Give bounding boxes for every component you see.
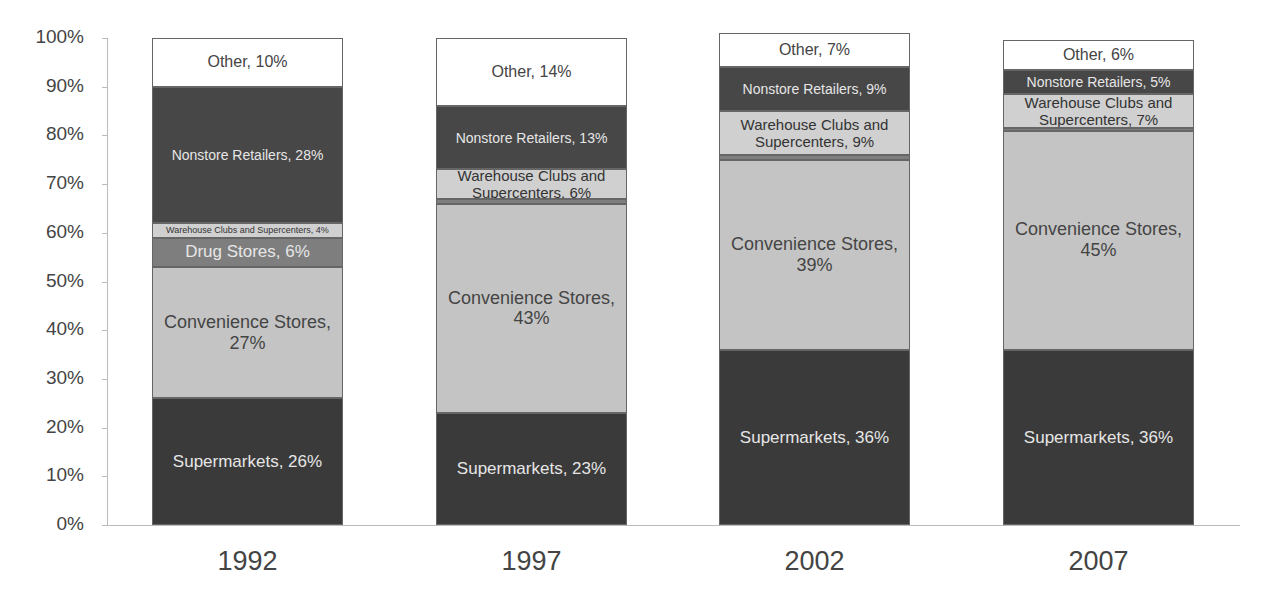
segment-supermarkets: Supermarkets, 26% (152, 398, 343, 525)
data-label: Convenience Stores, 39% (731, 234, 898, 275)
x-tick-label: 2002 (719, 546, 910, 577)
segment-other: Other, 7% (719, 33, 910, 67)
x-tick-label: 1992 (152, 546, 343, 577)
y-tick-mark (102, 379, 108, 380)
bar-2002: Supermarkets, 36%Convenience Stores, 39%… (719, 0, 910, 602)
y-tick-mark (102, 135, 108, 136)
y-tick-mark (102, 233, 108, 234)
y-tick-mark (102, 428, 108, 429)
stacked-bar-chart: 0%10%20%30%40%50%60%70%80%90%100% Superm… (0, 0, 1262, 602)
segment-other: Other, 14% (436, 38, 627, 106)
y-tick-mark (102, 184, 108, 185)
y-tick-mark (102, 38, 108, 39)
data-label: Other, 7% (779, 41, 850, 59)
data-label: Supermarkets, 26% (173, 452, 322, 472)
segment-nonstore-retailers: Nonstore Retailers, 9% (719, 67, 910, 111)
y-tick-label: 100% (0, 26, 84, 48)
data-label: Nonstore Retailers, 9% (743, 81, 887, 97)
data-label: Warehouse Clubs and Supercenters, 9% (741, 116, 889, 151)
y-tick-mark (102, 476, 108, 477)
bar-1997: Supermarkets, 23%Convenience Stores, 43%… (436, 0, 627, 602)
y-tick-label: 90% (0, 75, 84, 97)
data-label: Warehouse Clubs and Supercenters, 7% (1025, 94, 1173, 128)
data-label: Warehouse Clubs and Supercenters, 4% (166, 225, 329, 235)
y-tick-label: 30% (0, 367, 84, 389)
segment-drug-stores (436, 199, 627, 204)
y-tick-label: 50% (0, 270, 84, 292)
x-tick-label: 2007 (1003, 546, 1194, 577)
bar-1992: Supermarkets, 26%Convenience Stores, 27%… (152, 0, 343, 602)
y-tick-mark (102, 525, 108, 526)
data-label: Nonstore Retailers, 28% (172, 147, 324, 163)
y-tick-label: 80% (0, 123, 84, 145)
data-label: Warehouse Clubs and Supercenters, 6% (458, 169, 606, 198)
y-tick-mark (102, 282, 108, 283)
data-label: Convenience Stores, 27% (164, 312, 331, 353)
data-label: Convenience Stores, 45% (1015, 219, 1182, 260)
segment-nonstore-retailers: Nonstore Retailers, 13% (436, 106, 627, 169)
y-tick-label: 40% (0, 318, 84, 340)
data-label: Other, 14% (491, 63, 571, 81)
segment-drug-stores (1003, 128, 1194, 130)
data-label: Supermarkets, 36% (1024, 428, 1173, 448)
y-tick-label: 70% (0, 172, 84, 194)
y-tick-label: 60% (0, 221, 84, 243)
y-tick-label: 10% (0, 464, 84, 486)
segment-supermarkets: Supermarkets, 36% (719, 350, 910, 525)
data-label: Nonstore Retailers, 5% (1027, 74, 1171, 90)
y-tick-mark (102, 87, 108, 88)
segment-nonstore-retailers: Nonstore Retailers, 28% (152, 87, 343, 223)
segment-drug-stores (719, 155, 910, 160)
data-label: Other, 10% (207, 53, 287, 71)
data-label: Supermarkets, 36% (740, 428, 889, 448)
y-tick-label: 20% (0, 416, 84, 438)
data-label: Supermarkets, 23% (457, 459, 606, 479)
bar-2007: Supermarkets, 36%Convenience Stores, 45%… (1003, 0, 1194, 602)
segment-warehouse-clubs-and-supercenters: Warehouse Clubs and Supercenters, 7% (1003, 94, 1194, 128)
segment-warehouse-clubs-and-supercenters: Warehouse Clubs and Supercenters, 9% (719, 111, 910, 155)
y-tick-label: 0% (0, 513, 84, 535)
segment-convenience-stores: Convenience Stores, 45% (1003, 131, 1194, 350)
segment-warehouse-clubs-and-supercenters: Warehouse Clubs and Supercenters, 4% (152, 223, 343, 238)
data-label: Convenience Stores, 43% (448, 288, 615, 329)
x-tick-label: 1997 (436, 546, 627, 577)
segment-nonstore-retailers: Nonstore Retailers, 5% (1003, 70, 1194, 94)
segment-other: Other, 6% (1003, 40, 1194, 69)
segment-convenience-stores: Convenience Stores, 39% (719, 160, 910, 350)
data-label: Other, 6% (1063, 46, 1134, 64)
y-tick-mark (102, 330, 108, 331)
segment-convenience-stores: Convenience Stores, 43% (436, 204, 627, 413)
segment-other: Other, 10% (152, 38, 343, 87)
segment-drug-stores: Drug Stores, 6% (152, 238, 343, 267)
data-label: Nonstore Retailers, 13% (456, 130, 608, 146)
segment-warehouse-clubs-and-supercenters: Warehouse Clubs and Supercenters, 6% (436, 169, 627, 198)
segment-supermarkets: Supermarkets, 36% (1003, 350, 1194, 525)
segment-supermarkets: Supermarkets, 23% (436, 413, 627, 525)
segment-convenience-stores: Convenience Stores, 27% (152, 267, 343, 398)
data-label: Drug Stores, 6% (185, 242, 310, 262)
